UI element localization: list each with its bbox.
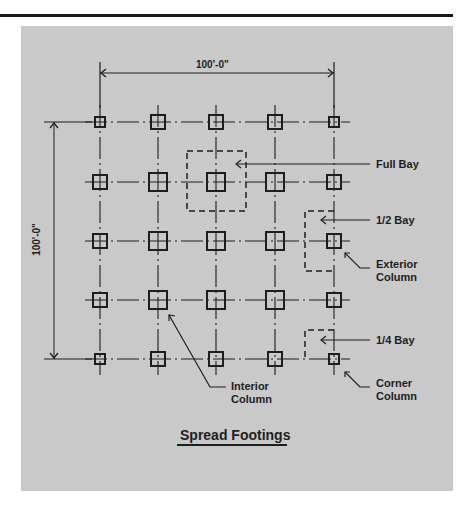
- title-underline: [177, 444, 287, 446]
- corner-column-label-line2: Column: [376, 390, 417, 403]
- interior-column-label-line1: Interior: [231, 380, 269, 393]
- vertical-dimension: [44, 122, 92, 359]
- half-bay-label: 1/2 Bay: [376, 214, 415, 227]
- figure-title: Spread Footings: [180, 427, 290, 443]
- quarter-bay-label: 1/4 Bay: [376, 334, 415, 347]
- interior-column-label-line2: Column: [231, 393, 272, 406]
- vertical-dimension-label: 100'-0": [31, 223, 42, 256]
- grid-lines: [85, 105, 350, 375]
- exterior-column-label-line1: Exterior: [376, 258, 418, 271]
- full-bay-label: Full Bay: [376, 158, 419, 171]
- corner-column-label-line1: Corner: [376, 377, 412, 390]
- exterior-column-label-line2: Column: [376, 271, 417, 284]
- horizontal-dimension-label: 100'-0": [196, 59, 229, 70]
